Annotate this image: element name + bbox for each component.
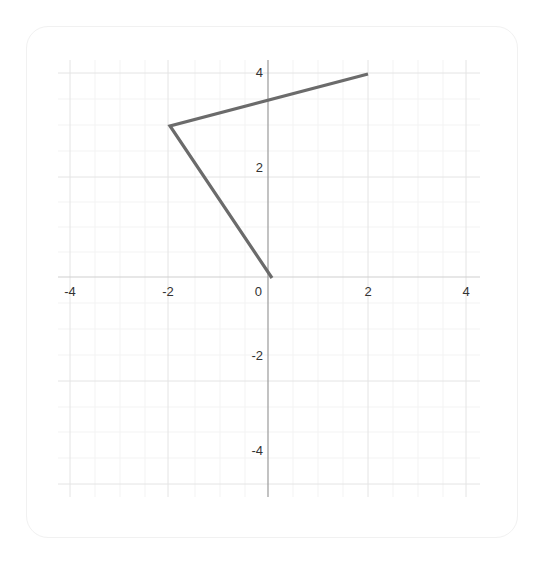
data-polyline (170, 74, 368, 278)
svg-text:4: 4 (256, 65, 263, 80)
svg-text:-2: -2 (162, 284, 174, 299)
svg-text:0: 0 (255, 284, 262, 299)
svg-text:-2: -2 (251, 348, 263, 363)
svg-text:-4: -4 (251, 443, 263, 458)
svg-text:4: 4 (462, 284, 469, 299)
svg-text:-4: -4 (64, 284, 76, 299)
coordinate-plane: -4 -2 0 2 4 4 2 -2 -4 (0, 0, 543, 563)
major-grid (58, 60, 480, 497)
minor-grid (58, 60, 480, 497)
x-tick-labels: -4 -2 0 2 4 (64, 284, 469, 299)
svg-text:2: 2 (256, 160, 263, 175)
svg-text:2: 2 (364, 284, 371, 299)
